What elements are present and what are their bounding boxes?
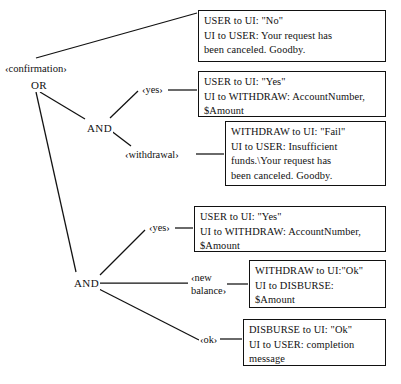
message-box-withdraw-ok-disburse: WITHDRAW to UI:"Ok" UI to DISBURSE: $Amo… <box>249 260 386 308</box>
and-or-tree-diagram: ‹confirmation› OR AND AND ‹yes› ‹withdra… <box>0 0 401 384</box>
operator-or-root: OR <box>30 79 48 92</box>
edge-and-upper-to-yes <box>110 91 138 118</box>
branch-label-yes-upper: ‹yes› <box>141 84 164 97</box>
branch-label-yes-lower: ‹yes› <box>148 222 171 235</box>
edge-or-to-and-upper <box>40 92 85 119</box>
edge-and-lower-to-yes <box>100 230 145 275</box>
edge-and-lower-to-ok <box>97 288 199 340</box>
message-box-yes-withdraw-upper: USER to UI: "Yes" UI to WITHDRAW: Accoun… <box>198 71 386 117</box>
branch-label-new-balance: ‹new balance› <box>190 272 227 297</box>
message-box-no-cancel: USER to UI: "No" UI to USER: Your reques… <box>198 10 386 62</box>
edge-confirmation-to-no <box>36 13 197 58</box>
node-label-confirmation: ‹confirmation› <box>4 62 68 75</box>
edge-or-to-and-lower <box>36 92 76 272</box>
message-box-withdraw-fail: WITHDRAW to UI: "Fail" UI to USER: Insuf… <box>225 121 386 186</box>
operator-and-upper: AND <box>86 122 113 135</box>
message-box-disburse-ok: DISBURSE to UI: "Ok" UI to USER: complet… <box>243 319 386 366</box>
message-box-yes-withdraw-lower: USER to UI: "Yes" UI to WITHDRAW: Accoun… <box>194 206 386 252</box>
branch-label-ok: ‹ok› <box>199 334 218 347</box>
branch-label-withdrawal: ‹withdrawal› <box>124 149 180 162</box>
edge-and-upper-to-withdrawal <box>110 130 131 146</box>
operator-and-lower: AND <box>73 277 100 290</box>
